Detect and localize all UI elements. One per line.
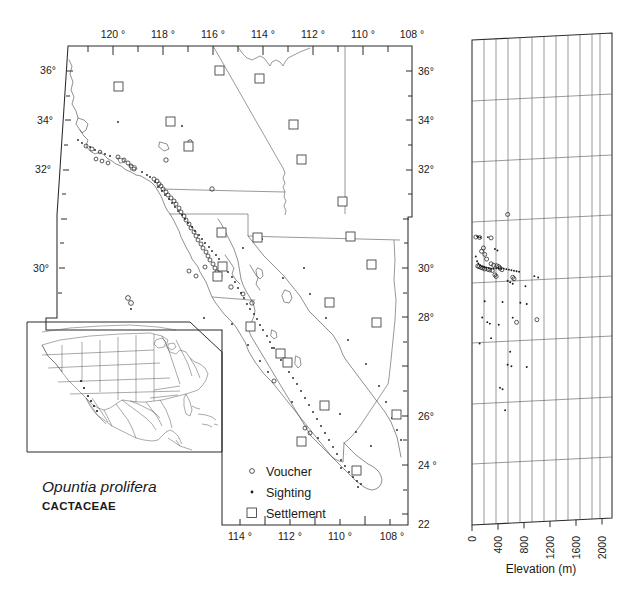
elevation-point	[483, 266, 485, 268]
elevation-point	[502, 388, 504, 390]
california-nevada-border	[213, 46, 283, 168]
bottom-axis-label-1: 112 °	[278, 530, 302, 542]
elevation-point	[479, 237, 481, 239]
elevation-vertical-gridlines	[484, 34, 600, 525]
gulf-island-angel	[256, 268, 263, 279]
geography-layer	[69, 46, 401, 490]
inset-occurrence-dots	[80, 380, 98, 412]
elevation-point	[484, 300, 486, 302]
elevation-axis-tick-labels: 0 400 800 1200 1600 2000	[466, 536, 608, 560]
us-mexico-border	[170, 214, 400, 240]
elevation-point	[487, 236, 489, 238]
elevation-point	[537, 277, 539, 279]
elevation-point	[518, 271, 520, 273]
sonora-chihuahua-border	[389, 240, 396, 378]
top-axis-label-3: 114 °	[251, 28, 275, 40]
elevation-point	[479, 264, 481, 266]
elevation-tick-1: 400	[492, 536, 504, 554]
right-axis-label-1: 34°	[418, 114, 434, 126]
elevation-point	[504, 409, 506, 411]
elevation-point	[507, 280, 509, 282]
mainland-gulf-coast	[248, 236, 401, 457]
legend-voucher-icon	[250, 469, 255, 474]
bottom-axis-label-3: 108 °	[380, 530, 405, 542]
elevation-tick-2: 800	[518, 536, 530, 554]
taxon-family: CACTACEAE	[42, 500, 116, 512]
elevation-point	[511, 365, 513, 367]
elevation-point	[505, 268, 507, 270]
top-axis-labels: 120 ° 118 ° 116 ° 114 ° 112 ° 110 ° 108 …	[101, 28, 425, 40]
elevation-point	[479, 343, 481, 345]
elevation-horizontal-gridlines	[472, 94, 612, 464]
right-axis-label-0: 36°	[418, 65, 434, 77]
top-axis-label-5: 110 °	[351, 28, 375, 40]
elevation-point	[483, 252, 487, 256]
elevation-point	[489, 323, 491, 325]
inset-geography	[42, 325, 218, 450]
legend-sighting-icon	[251, 491, 254, 494]
right-axis-label-4: 28°	[418, 311, 434, 323]
elevation-point	[475, 255, 477, 257]
elevation-point	[526, 303, 528, 305]
elevation-point	[535, 318, 539, 322]
elevation-scatter-panel: 0 400 800 1200 1600 2000 Elevation (m)	[466, 33, 612, 576]
elevation-point	[525, 285, 527, 287]
elevation-point	[515, 320, 519, 324]
elevation-point	[499, 387, 501, 389]
elevation-point	[477, 236, 479, 238]
elevation-point	[516, 270, 518, 272]
right-axis-label-7: 22	[418, 518, 430, 530]
elevation-point	[513, 270, 515, 272]
elevation-point	[498, 324, 500, 326]
symbol-legend: Voucher Sighting Settlement	[247, 465, 326, 521]
elevation-point	[476, 260, 478, 262]
elevation-point	[486, 321, 488, 323]
bottom-axis-label-0: 114 °	[228, 530, 252, 542]
right-axis-label-2: 32°	[418, 163, 434, 175]
baja-state-border	[212, 297, 255, 300]
elevation-point	[509, 351, 511, 353]
elevation-tick-0: 0	[466, 536, 478, 542]
utah-arizona-border	[237, 46, 310, 66]
elevation-point	[509, 281, 511, 283]
taxon-name: Opuntia prolifera	[42, 478, 157, 495]
legend-settlement-icon	[247, 508, 257, 518]
elevation-point	[485, 267, 487, 269]
distribution-figure: 120 ° 118 ° 116 ° 114 ° 112 ° 110 ° 108 …	[0, 0, 632, 602]
elevation-tick-4: 1600	[570, 536, 582, 560]
elevation-panel-frame	[472, 33, 612, 525]
elevation-point	[490, 268, 492, 270]
elevation-point	[497, 250, 499, 252]
right-axis-label-6: 24 °	[418, 459, 437, 471]
elevation-point	[493, 268, 495, 270]
elevation-axis-title: Elevation (m)	[506, 562, 577, 576]
elevation-point	[477, 262, 479, 264]
left-axis-labels: 36° 34° 32° 30°	[33, 64, 56, 274]
gulf-island-small	[271, 330, 277, 339]
top-axis-label-0: 120 °	[101, 28, 126, 40]
elevation-point	[511, 269, 513, 271]
left-axis-label-3: 30°	[33, 262, 49, 274]
elevation-point	[506, 212, 510, 216]
elevation-tick-3: 1200	[544, 536, 556, 560]
right-axis-ticks	[402, 71, 412, 514]
elevation-point	[494, 248, 496, 250]
elevation-point	[519, 302, 521, 304]
right-axis-label-5: 26°	[418, 410, 434, 422]
left-axis-label-0: 36°	[40, 64, 56, 76]
elevation-axis-ticks	[472, 519, 602, 532]
elevation-point	[533, 275, 535, 277]
legend-sighting-label: Sighting	[266, 486, 311, 500]
elevation-point	[512, 317, 514, 319]
elevation-point	[508, 269, 510, 271]
elevation-point	[500, 268, 502, 270]
salton-sea	[159, 142, 169, 151]
central-valley-line	[78, 118, 88, 133]
elevation-point	[488, 267, 490, 269]
left-axis-label-1: 34°	[37, 114, 53, 126]
baja-gulf-coast	[218, 219, 344, 462]
figure-root: 120 ° 118 ° 116 ° 114 ° 112 ° 110 ° 108 …	[0, 0, 632, 602]
bottom-axis-labels: 114 ° 112 ° 110 ° 108 °	[228, 530, 404, 542]
elevation-point	[512, 283, 514, 285]
gulf-island-carmen	[295, 356, 301, 368]
